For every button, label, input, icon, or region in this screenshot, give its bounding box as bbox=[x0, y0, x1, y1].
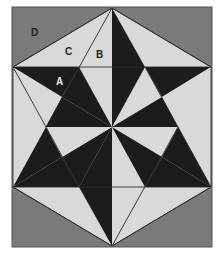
label-b: B bbox=[96, 49, 103, 60]
hexagon-star-diagram: D C B A bbox=[0, 0, 222, 260]
label-a: A bbox=[56, 76, 63, 87]
label-c: C bbox=[65, 46, 72, 57]
label-d: D bbox=[31, 27, 38, 38]
